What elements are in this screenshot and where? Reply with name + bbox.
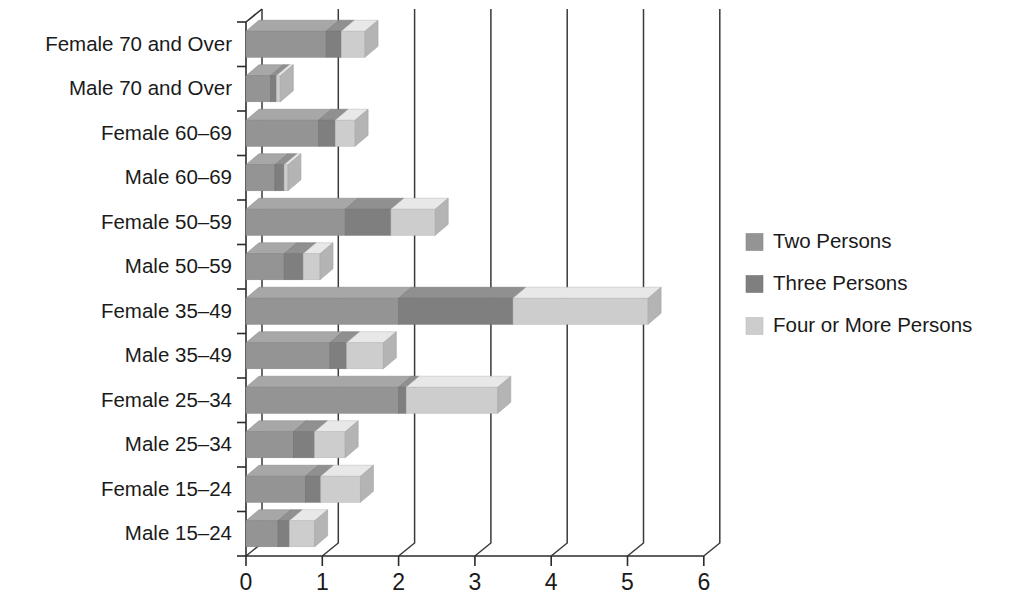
bar-group-male-25-34: [246, 421, 358, 458]
bar-segment-three-persons: [345, 209, 391, 235]
chart-canvas: Female 70 and OverMale 70 and OverFemale…: [0, 0, 1009, 598]
bar-top-face: [246, 332, 343, 343]
bar-group-male-15-24: [246, 510, 328, 547]
x-tick-label-1: 1: [316, 569, 329, 595]
x-tick-label-5: 5: [621, 569, 634, 595]
bar-segment-four-or-more-persons: [315, 432, 346, 458]
bar-segment-three-persons: [306, 476, 321, 502]
bar-top-face: [399, 287, 526, 298]
category-label-male-25-34: Male 25–34: [125, 432, 232, 455]
x-tick-label-6: 6: [697, 569, 710, 595]
bar-top-face: [246, 20, 339, 31]
bar-group-male-50-59: [246, 243, 333, 280]
bar-segment-four-or-more-persons: [321, 476, 361, 502]
gridline-5: [628, 9, 644, 556]
bar-segment-two-persons: [246, 298, 399, 324]
bar-segment-two-persons: [246, 476, 306, 502]
bar-segment-four-or-more-persons: [284, 165, 288, 191]
x-tick-label-4: 4: [545, 569, 558, 595]
bar-segment-four-or-more-persons: [335, 120, 355, 146]
legend-swatch-two-persons: [746, 234, 763, 251]
legend-swatch-three-persons: [746, 276, 763, 293]
legend-label-four-or-more-persons: Four or More Persons: [773, 313, 972, 336]
bar-group-female-70-and-over: [246, 20, 378, 57]
bar-top-face: [246, 198, 358, 209]
category-label-male-35-49: Male 35–49: [125, 343, 232, 366]
bar-segment-four-or-more-persons: [391, 209, 435, 235]
bar-segment-two-persons: [246, 343, 330, 369]
bar-segment-three-persons: [270, 76, 276, 102]
bar-segment-two-persons: [246, 120, 318, 146]
x-tick-label-0: 0: [240, 569, 253, 595]
bar-segment-four-or-more-persons: [347, 343, 384, 369]
legend-swatch-four-or-more-persons: [746, 318, 763, 335]
bar-top-face: [246, 287, 412, 298]
bar-top-face: [246, 376, 412, 387]
category-label-female-50-59: Female 50–59: [101, 210, 232, 233]
bar-group-female-25-34: [246, 376, 511, 413]
category-label-female-70-and-over: Female 70 and Over: [45, 32, 232, 55]
bar-segment-two-persons: [246, 209, 345, 235]
bar-segment-three-persons: [284, 254, 303, 280]
bar-group-male-60-69: [246, 154, 301, 191]
bar-segment-two-persons: [246, 387, 399, 413]
bar-group-female-15-24: [246, 465, 373, 502]
category-label-male-50-59: Male 50–59: [125, 254, 232, 277]
bar-top-face: [513, 287, 661, 298]
bar-segment-two-persons: [246, 165, 275, 191]
category-label-female-60-69: Female 60–69: [101, 121, 232, 144]
bar-group-female-35-49: [246, 287, 661, 324]
bar-segment-three-persons: [318, 120, 335, 146]
category-label-female-35-49: Female 35–49: [101, 299, 232, 322]
bar-top-face: [246, 109, 331, 120]
bar-segment-two-persons: [246, 76, 270, 102]
category-label-female-15-24: Female 15–24: [101, 477, 232, 500]
gridline-4: [551, 9, 567, 556]
bar-group-female-50-59: [246, 198, 448, 235]
legend-label-two-persons: Two Persons: [773, 229, 892, 252]
bar-segment-four-or-more-persons: [289, 521, 314, 547]
bar-segment-four-or-more-persons: [513, 298, 648, 324]
bar-segment-three-persons: [293, 432, 314, 458]
bar-segment-three-persons: [326, 31, 341, 57]
stacked-bar-chart: Female 70 and OverMale 70 and OverFemale…: [0, 0, 1009, 598]
x-tick-label-2: 2: [392, 569, 405, 595]
bar-group-male-70-and-over: [246, 65, 293, 102]
category-label-female-25-34: Female 25–34: [101, 388, 232, 411]
gridline-3: [475, 9, 491, 556]
bar-top-face: [406, 376, 511, 387]
category-label-male-60-69: Male 60–69: [125, 165, 232, 188]
bar-segment-three-persons: [330, 343, 347, 369]
x-tick-label-3: 3: [469, 569, 482, 595]
bar-segment-four-or-more-persons: [303, 254, 320, 280]
bar-segment-three-persons: [399, 298, 513, 324]
bar-segment-four-or-more-persons: [277, 76, 281, 102]
bar-segment-three-persons: [275, 165, 284, 191]
bar-segment-three-persons: [278, 521, 289, 547]
legend-label-three-persons: Three Persons: [773, 271, 907, 294]
bar-segment-two-persons: [246, 432, 293, 458]
bar-segment-four-or-more-persons: [406, 387, 498, 413]
category-label-male-15-24: Male 15–24: [125, 521, 232, 544]
gridline-2: [399, 9, 415, 556]
bar-segment-three-persons: [399, 387, 407, 413]
category-label-male-70-and-over: Male 70 and Over: [69, 76, 232, 99]
bar-segment-two-persons: [246, 521, 278, 547]
bar-segment-two-persons: [246, 254, 284, 280]
bar-segment-four-or-more-persons: [341, 31, 365, 57]
bar-group-male-35-49: [246, 332, 396, 369]
gridline-6: [704, 9, 720, 556]
bar-segment-two-persons: [246, 31, 326, 57]
bar-group-female-60-69: [246, 109, 368, 146]
